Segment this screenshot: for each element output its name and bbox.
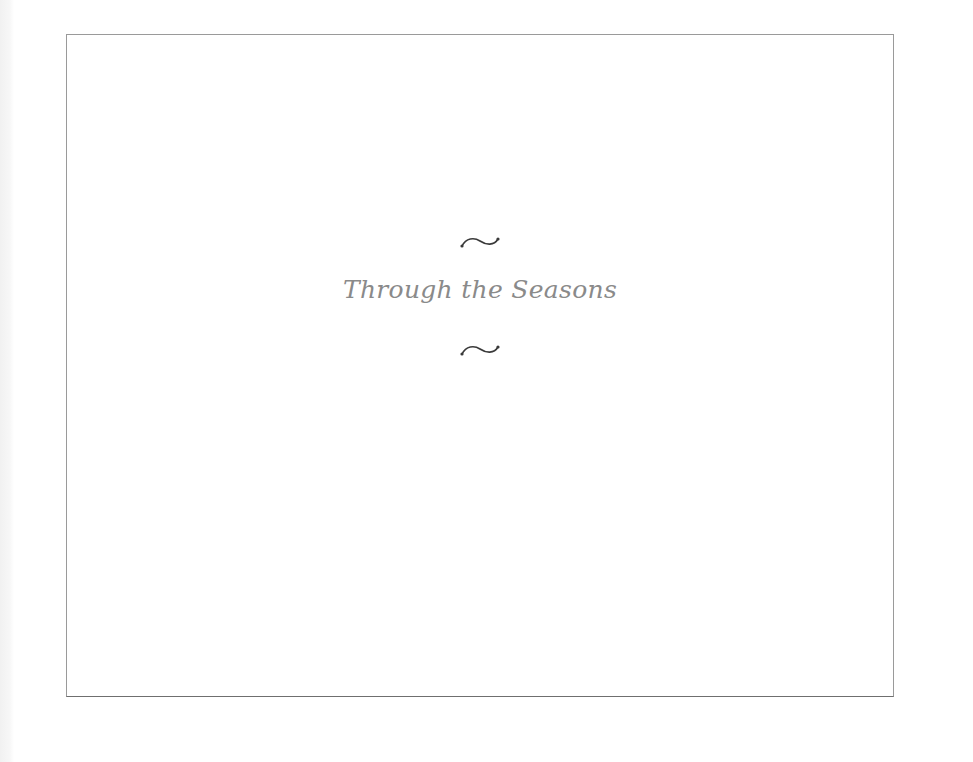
tilde-swash-icon bbox=[458, 234, 502, 250]
left-margin-strip bbox=[0, 0, 14, 762]
tilde-swash-icon bbox=[458, 342, 502, 358]
page-frame: Through the Seasons bbox=[66, 34, 894, 697]
ornament-top bbox=[67, 234, 893, 254]
section-title: Through the Seasons bbox=[67, 275, 893, 304]
ornament-bottom bbox=[67, 342, 893, 362]
